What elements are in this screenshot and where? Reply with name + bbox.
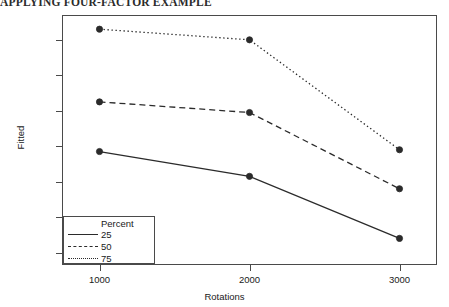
- y-axis-tick-mark: [56, 253, 62, 254]
- y-axis-tick-mark: [56, 75, 62, 76]
- legend-entry-label: 25: [101, 229, 112, 240]
- y-axis-tick-mark: [56, 146, 62, 147]
- x-axis-tick-mark: [100, 265, 101, 271]
- x-axis-tick-label: 1000: [77, 274, 123, 285]
- y-axis-tick-mark: [56, 217, 62, 218]
- x-axis-tick-mark: [400, 265, 401, 271]
- y-axis: 140160180200220240260: [0, 0, 62, 307]
- legend-line-swatch: [68, 234, 98, 235]
- legend-entry-label: 50: [101, 241, 112, 252]
- x-axis-tick-label: 2000: [227, 274, 273, 285]
- legend-entry-50: 50: [64, 241, 156, 252]
- legend-title: Percent: [101, 218, 134, 229]
- legend: Percent 255075: [63, 216, 155, 264]
- y-axis-tick-mark: [56, 40, 62, 41]
- legend-line-swatch: [68, 258, 98, 259]
- x-axis-tick-mark: [250, 265, 251, 271]
- legend-entry-25: 25: [64, 229, 156, 240]
- x-axis-title: Rotations: [0, 291, 449, 302]
- legend-entry-75: 75: [64, 253, 156, 264]
- legend-entry-label: 75: [101, 253, 112, 264]
- y-axis-title: Fitted: [15, 108, 26, 168]
- y-axis-tick-mark: [56, 111, 62, 112]
- chart-figure: 140160180200220240260 100020003000 Rotat…: [0, 0, 449, 307]
- x-axis-tick-label: 3000: [377, 274, 423, 285]
- legend-line-swatch: [68, 246, 98, 247]
- y-axis-tick-mark: [56, 182, 62, 183]
